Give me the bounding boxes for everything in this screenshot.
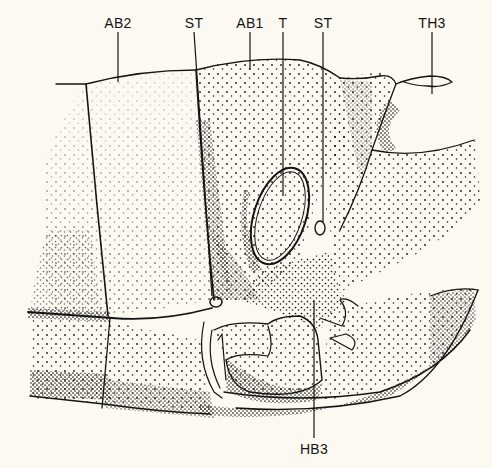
thorax-plate (326, 72, 480, 292)
anatomy-figure (0, 0, 492, 468)
label-ab2: AB2 (104, 16, 131, 30)
segment-lower-band (30, 318, 214, 418)
label-hb3: HB3 (300, 442, 328, 456)
label-st-right: ST (314, 16, 333, 30)
label-t: T (279, 16, 288, 30)
label-ab1: AB1 (236, 16, 263, 30)
label-st-left: ST (185, 16, 204, 30)
label-th3: TH3 (418, 16, 445, 30)
segment-ab2-upper (28, 70, 212, 322)
